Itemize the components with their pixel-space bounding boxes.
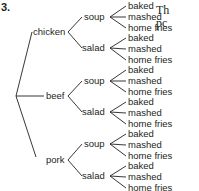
- leaf-baked: baked: [128, 33, 154, 43]
- node-chicken-soup: soup: [84, 12, 105, 22]
- node-chicken-salad: salad: [82, 43, 105, 53]
- leaf-mashed: mashed: [128, 108, 162, 118]
- leaf-baked: baked: [128, 161, 154, 171]
- leaf-mashed: mashed: [128, 140, 162, 150]
- leaf-baked: baked: [128, 1, 154, 11]
- node-pork-soup: soup: [84, 139, 105, 149]
- node-chicken: chicken: [33, 27, 65, 37]
- leaf-baked: baked: [128, 97, 154, 107]
- leaf-mashed: mashed: [128, 76, 162, 86]
- leaf-mashed: mashed: [128, 44, 162, 54]
- node-pork-salad: salad: [82, 171, 105, 181]
- node-beef-soup: soup: [84, 76, 105, 86]
- node-beef-salad: salad: [82, 107, 105, 117]
- leaf-baked: baked: [128, 129, 154, 139]
- node-beef: beef: [46, 91, 65, 101]
- leaf-mashed: mashed: [128, 172, 162, 182]
- leaf-home-fries: home fries: [128, 183, 172, 191]
- leaf-baked: baked: [128, 65, 154, 75]
- leaf-mashed: mashed: [128, 12, 162, 22]
- node-pork: pork: [46, 155, 64, 165]
